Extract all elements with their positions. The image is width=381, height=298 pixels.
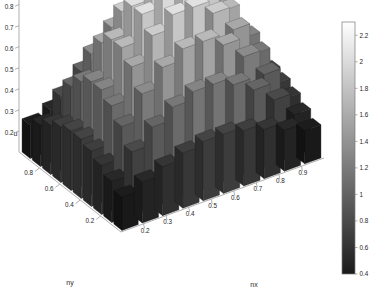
colorbar-tick-label: 2.2 (360, 32, 369, 39)
colorbar-layer: 2.221.81.61.41.210.80.60.4 (342, 22, 369, 277)
z-tick (15, 68, 19, 70)
x-tick-label: 0.7 (253, 185, 262, 192)
z-tick-label: 0.8 (5, 3, 14, 10)
x-tick-label: 0.4 (186, 210, 195, 217)
z-tick (15, 110, 19, 112)
y-tick (35, 168, 39, 171)
y-tick (96, 216, 100, 219)
colorbar-tick-label: 0.4 (360, 270, 369, 277)
colorbar-gradient (342, 22, 355, 274)
x-tick-label: 0.2 (141, 227, 150, 234)
y-axis-label: ny (66, 279, 74, 287)
colorbar-tick-label: 2 (360, 58, 364, 65)
z-tick-label: 0.6 (5, 45, 14, 52)
x-tick-label: 0.8 (276, 177, 285, 184)
x-tick-label: 0.6 (231, 194, 240, 201)
z-tick-label: 0.7 (5, 24, 14, 31)
y-tick-label: 0.8 (24, 169, 33, 176)
x-tick-label: 0.9 (299, 169, 308, 176)
x-axis-label: nx (250, 281, 258, 288)
y-tick-label: 0.4 (65, 201, 74, 208)
z-tick (15, 89, 19, 91)
y-tick-label: 0.6 (45, 185, 54, 192)
colorbar-tick-label: 1 (360, 191, 364, 198)
z-tick (15, 5, 19, 7)
y-tick-label: 0.2 (85, 217, 94, 224)
colorbar-tick-label: 1.4 (360, 138, 369, 145)
colorbar-tick-label: 0.6 (360, 244, 369, 251)
colorbar-tick-label: 1.8 (360, 85, 369, 92)
z-tick-label: 0.4 (5, 87, 14, 94)
bars-layer (22, 0, 321, 230)
x-tick-label: 0.5 (208, 202, 217, 209)
z-tick (15, 26, 19, 28)
bar-cell (297, 118, 321, 164)
x-tick-label: 0.3 (163, 218, 172, 225)
colorbar-tick-label: 1.6 (360, 111, 369, 118)
y-tick (76, 200, 80, 203)
y-tick (55, 184, 59, 187)
z-tick-label: 0.5 (5, 66, 14, 73)
z-tick (15, 47, 19, 49)
figure-canvas: 0.90.80.70.60.50.40.30.2u0.80.60.40.2ny0… (0, 0, 381, 298)
bar3-plot: 0.90.80.70.60.50.40.30.2u0.80.60.40.2ny0… (0, 0, 381, 298)
z-axis-label: u (14, 130, 18, 137)
colorbar-tick-label: 1.2 (360, 164, 369, 171)
z-tick-label: 0.3 (5, 108, 14, 115)
colorbar-tick-label: 0.8 (360, 217, 369, 224)
